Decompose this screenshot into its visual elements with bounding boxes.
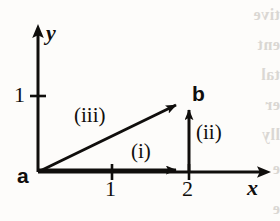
- diagram-canvas: [0, 0, 280, 221]
- x-tick-label-2: 2: [182, 178, 193, 200]
- y-axis: [30, 24, 46, 172]
- segment-label-i: (i): [131, 141, 151, 162]
- vector-arrow-iii: [40, 105, 176, 171]
- x-axis: [38, 164, 271, 180]
- vector-diagram-figure: tive ent tal er lly e e: [0, 0, 280, 221]
- x-tick-label-1: 1: [105, 178, 116, 200]
- segment-label-ii: (ii): [196, 122, 222, 143]
- segment-label-iii: (iii): [74, 105, 106, 126]
- x-axis-label: x: [247, 177, 258, 199]
- y-axis-label: y: [46, 22, 56, 44]
- point-label-b: b: [192, 83, 205, 104]
- point-label-a: a: [17, 165, 29, 186]
- y-tick-label-1: 1: [14, 84, 25, 106]
